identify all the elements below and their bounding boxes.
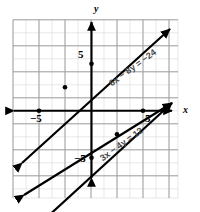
y-tick-5: 5 xyxy=(78,49,84,60)
coordinate-plane xyxy=(0,0,200,212)
line-point xyxy=(115,132,120,137)
y-axis-label: y xyxy=(94,4,98,14)
line-point xyxy=(63,85,68,90)
y-tick-neg5: −5 xyxy=(74,153,86,164)
graph-figure: 5 −5 −5 5 x y 6x − 8y = −24 3x − 4y = 12 xyxy=(0,0,200,212)
line-point xyxy=(89,156,94,161)
line-point xyxy=(89,62,94,67)
x-tick-neg5: −5 xyxy=(30,113,42,124)
x-axis-label: x xyxy=(183,105,188,115)
x-tick-5: 5 xyxy=(145,113,151,124)
